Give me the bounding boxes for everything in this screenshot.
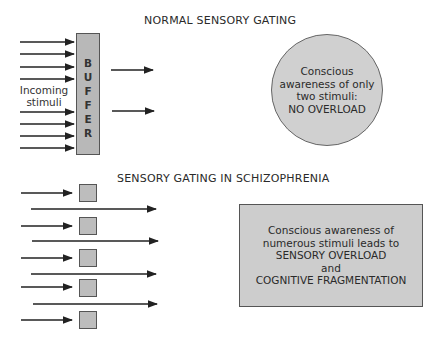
gate-block <box>79 279 97 297</box>
buffer-letter: R <box>84 126 92 140</box>
buffer-letter: B <box>84 56 92 70</box>
blocked-arrows <box>21 193 72 320</box>
awareness-circle: Conscious awareness of only two stimuli:… <box>271 34 383 146</box>
circle-text: Conscious awareness of only two stimuli:… <box>279 65 374 115</box>
box-line: COGNITIVE FRAGMENTATION <box>256 274 407 287</box>
buffer-block: B U F F E R <box>76 33 100 155</box>
incoming-stimuli-label: Incoming stimuli <box>18 84 70 108</box>
buffer-letter: E <box>84 112 91 126</box>
box-line: SENSORY OVERLOAD <box>256 249 407 262</box>
gate-block <box>79 217 97 235</box>
box-line: Conscious awareness of <box>256 224 407 237</box>
gate-block <box>79 184 97 202</box>
output-arrows <box>111 70 154 111</box>
stimuli-label-line: stimuli <box>18 96 70 108</box>
incoming-label-line: Incoming <box>18 84 70 96</box>
schizophrenia-gating-title: SENSORY GATING IN SCHIZOPHRENIA <box>117 172 329 185</box>
buffer-label: B U F F E R <box>77 34 99 140</box>
box-line: and <box>256 262 407 275</box>
gate-block <box>79 311 97 329</box>
circle-line: two stimuli: <box>279 90 374 103</box>
box-text: Conscious awareness of numerous stimuli … <box>256 224 407 287</box>
circle-line: NO OVERLOAD <box>279 103 374 116</box>
circle-line: awareness of only <box>279 78 374 91</box>
box-line: numerous stimuli leads to <box>256 237 407 250</box>
buffer-letter: F <box>84 84 91 98</box>
buffer-letter: F <box>84 98 91 112</box>
buffer-letter: U <box>84 70 93 84</box>
gate-block <box>79 249 97 267</box>
circle-line: Conscious <box>279 65 374 78</box>
normal-gating-title: NORMAL SENSORY GATING <box>144 14 296 27</box>
overload-box: Conscious awareness of numerous stimuli … <box>239 204 423 307</box>
